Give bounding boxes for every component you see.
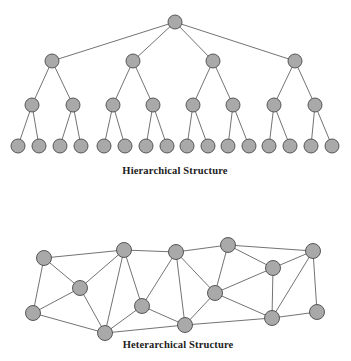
hierarchical-node <box>11 139 25 153</box>
hierarchical-node <box>308 98 322 112</box>
hierarchical-node <box>221 139 235 153</box>
hierarchical-node <box>139 139 153 153</box>
hierarchical-node <box>106 98 120 112</box>
hierarchical-node <box>53 139 67 153</box>
hierarchical-caption: Hierarchical Structure <box>122 165 227 176</box>
hierarchical-node <box>283 139 297 153</box>
heterarchical-node <box>221 238 236 253</box>
hierarchical-node <box>160 139 174 153</box>
hierarchical-node <box>206 54 220 68</box>
hierarchical-node <box>126 54 140 68</box>
heterarchical-node <box>98 326 113 341</box>
hierarchical-node <box>74 139 88 153</box>
heterarchical-node <box>208 286 223 301</box>
heterarchical-node <box>37 251 52 266</box>
network-structures-figure: Hierarchical Structure Heterarchical Str… <box>0 0 351 361</box>
heterarchical-node <box>266 261 281 276</box>
hierarchical-node <box>168 15 182 29</box>
hierarchical-node <box>25 98 39 112</box>
hierarchical-node <box>180 139 194 153</box>
hierarchical-node <box>325 139 339 153</box>
hierarchical-node <box>242 139 256 153</box>
heterarchical-node <box>135 299 150 314</box>
hierarchical-node <box>97 139 111 153</box>
hierarchical-node <box>267 98 281 112</box>
hierarchical-node <box>66 98 80 112</box>
heterarchical-node <box>306 244 321 259</box>
heterarchical-node <box>178 318 193 333</box>
hierarchical-node <box>262 139 276 153</box>
hierarchical-node <box>288 54 302 68</box>
heterarchical-caption: Heterarchical Structure <box>123 339 234 350</box>
hierarchical-node <box>186 98 200 112</box>
hierarchical-node <box>304 139 318 153</box>
hierarchical-node <box>32 139 46 153</box>
heterarchical-node <box>117 243 132 258</box>
heterarchical-node <box>265 311 280 326</box>
hierarchical-node <box>201 139 215 153</box>
heterarchical-node <box>169 245 184 260</box>
heterarchical-node <box>310 305 325 320</box>
hierarchical-node <box>45 54 59 68</box>
heterarchical-node <box>73 281 88 296</box>
hierarchical-node <box>146 98 160 112</box>
hierarchical-node <box>118 139 132 153</box>
heterarchical-node <box>26 306 41 321</box>
hierarchical-node <box>226 98 240 112</box>
